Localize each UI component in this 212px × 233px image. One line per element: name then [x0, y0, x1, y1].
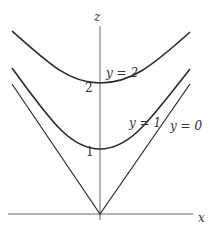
tick-z1: 1 — [86, 145, 94, 159]
level-curves-diagram: z x 2 1 y = 2 y = 1 y = 0 — [0, 0, 212, 233]
tick-z2: 2 — [85, 81, 93, 95]
x-axis-label: x — [198, 211, 205, 225]
curve-y2 — [12, 31, 190, 83]
z-axis-label: z — [93, 10, 101, 24]
curve-y1 — [12, 68, 190, 149]
label-y1: y = 1 — [128, 116, 161, 130]
label-y0: y = 0 — [169, 119, 202, 133]
label-y2: y = 2 — [105, 66, 138, 80]
